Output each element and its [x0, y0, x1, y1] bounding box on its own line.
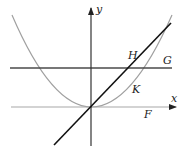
y-axis-label: y [95, 3, 103, 16]
label-H: H [127, 49, 138, 62]
label-F: F [143, 108, 152, 121]
parabola-K [12, 15, 172, 107]
function-graph-diagram: y x H G K F [0, 0, 182, 154]
label-K: K [131, 83, 141, 96]
x-axis-label: x [171, 92, 178, 105]
diagonal-line-H [54, 23, 171, 145]
label-G: G [163, 54, 172, 67]
